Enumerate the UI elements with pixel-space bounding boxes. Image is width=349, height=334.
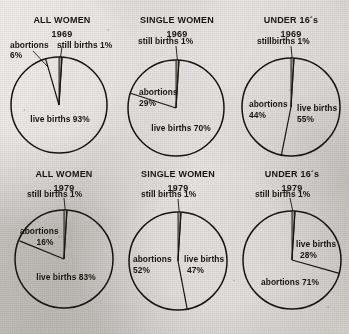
figure-sheet: ALL WOMEN 1969 abortions 6% still births… — [0, 0, 349, 334]
chart-all-women-1979: ALL WOMEN 1979 still births 1% abortions… — [15, 169, 113, 308]
label-abortions-pct: 29% — [139, 98, 156, 108]
label-abortions-pct: 52% — [133, 265, 150, 275]
label-abortions-pct: 6% — [10, 50, 23, 60]
leader-line-stillbirths — [290, 198, 293, 211]
chart-all-women-1969: ALL WOMEN 1969 abortions 6% still births… — [10, 15, 113, 153]
label-abortions: abortions — [139, 87, 178, 97]
chart-title-line1: ALL WOMEN — [33, 15, 90, 25]
pie-chart-grid: ALL WOMEN 1969 abortions 6% still births… — [0, 0, 349, 334]
chart-under-16s-1979: UNDER 16´s 1979 still births 1% live bir… — [243, 169, 341, 309]
label-abortions: abortions 71% — [261, 277, 319, 287]
chart-title-line1: SINGLE WOMEN — [140, 15, 214, 25]
label-abortions-pct: 16% — [37, 237, 54, 247]
chart-under-16s-1969: UNDER 16´s 1969 stillbirths 1% abortions… — [242, 15, 340, 156]
label-livebirths: live births — [297, 103, 337, 113]
chart-title-line1: UNDER 16´s — [265, 169, 320, 179]
label-livebirths: live births 70% — [151, 123, 211, 133]
leader-line-stillbirths — [64, 198, 65, 210]
label-abortions: abortions — [20, 226, 59, 236]
label-stillbirths: still births 1% — [57, 40, 113, 50]
label-livebirths: live births 83% — [36, 272, 96, 282]
label-stillbirths: still births 1% — [27, 189, 83, 199]
label-abortions: abortions — [10, 40, 49, 50]
chart-single-women-1969: SINGLE WOMEN 1969 still births 1% aborti… — [128, 15, 224, 156]
label-livebirths: live births — [296, 239, 336, 249]
label-abortions-pct: 44% — [249, 110, 266, 120]
slice-boundary-abortions — [46, 59, 59, 105]
slice-boundary-abortions — [292, 260, 339, 273]
leader-line-stillbirths — [291, 46, 292, 58]
label-livebirths-pct: 28% — [300, 250, 317, 260]
label-stillbirths: still births 1% — [141, 189, 197, 199]
label-livebirths: live births 93% — [30, 114, 90, 124]
leader-line-stillbirths — [176, 46, 177, 60]
label-livebirths: live births — [184, 254, 224, 264]
label-stillbirths: still births 1% — [138, 36, 194, 46]
chart-title-line2: 1969 — [52, 29, 73, 39]
label-livebirths-pct: 47% — [187, 265, 204, 275]
chart-title-line1: SINGLE WOMEN — [141, 169, 215, 179]
label-stillbirths: still births 1% — [255, 189, 311, 199]
label-livebirths-pct: 55% — [297, 114, 314, 124]
label-abortions: abortions — [133, 254, 172, 264]
slice-boundary-abortions — [178, 261, 187, 309]
leader-line-stillbirths — [178, 199, 179, 212]
label-abortions: abortions — [249, 99, 288, 109]
chart-title-line1: UNDER 16´s — [264, 15, 319, 25]
chart-title-line1: ALL WOMEN — [35, 169, 92, 179]
chart-single-women-1979: SINGLE WOMEN 1979 still births 1% aborti… — [129, 169, 227, 310]
slice-boundary-abortions — [281, 107, 291, 155]
label-stillbirths: stillbirths 1% — [257, 36, 310, 46]
